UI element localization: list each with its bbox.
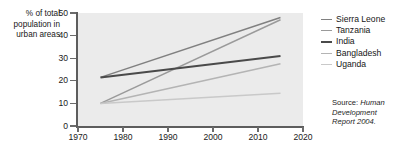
series-line (101, 64, 281, 104)
y-tick-label: 10 (48, 98, 68, 108)
legend-label: Bangladesh (336, 48, 381, 59)
legend-item[interactable]: India (321, 36, 385, 47)
series-line (101, 18, 281, 78)
legend-label: India (336, 36, 355, 47)
x-tick-label: 1990 (151, 132, 185, 142)
x-tick-label: 2020 (286, 132, 320, 142)
legend-label: Tanzania (336, 25, 370, 36)
legend: Sierra LeoneTanzaniaIndiaBangladeshUgand… (321, 14, 385, 70)
y-tick (70, 103, 76, 104)
source-note: Source: Human Development Report 2004. (332, 98, 398, 127)
y-tick (70, 58, 76, 59)
y-tick (70, 125, 76, 126)
series-line (101, 20, 281, 104)
x-axis-line (76, 126, 304, 128)
y-tick-label: 40 (48, 30, 68, 40)
y-tick (70, 35, 76, 36)
legend-line-icon (321, 53, 332, 54)
series-line (101, 93, 281, 103)
line-chart-figure: % of total population in urban areas 010… (0, 0, 398, 147)
y-tick (70, 80, 76, 81)
y-axis-line (76, 12, 78, 127)
plot-lines (78, 13, 303, 126)
plot-area (78, 13, 303, 126)
legend-label: Uganda (336, 59, 366, 70)
legend-item[interactable]: Uganda (321, 59, 385, 70)
legend-item[interactable]: Bangladesh (321, 48, 385, 59)
y-tick (70, 12, 76, 13)
legend-line-icon (321, 30, 332, 31)
y-tick-label: 0 (48, 121, 68, 131)
legend-item[interactable]: Sierra Leone (321, 14, 385, 25)
legend-label: Sierra Leone (336, 14, 385, 25)
x-tick-label: 2000 (196, 132, 230, 142)
legend-line-icon (321, 41, 332, 43)
x-tick-label: 1980 (106, 132, 140, 142)
source-prefix: Source: (332, 98, 360, 107)
x-tick-label: 1970 (61, 132, 95, 142)
x-tick-label: 2010 (241, 132, 275, 142)
y-tick-label: 20 (48, 75, 68, 85)
legend-line-icon (321, 19, 332, 20)
legend-item[interactable]: Tanzania (321, 25, 385, 36)
y-tick-label: 30 (48, 53, 68, 63)
legend-line-icon (321, 64, 332, 65)
y-tick-label: 50 (48, 8, 68, 18)
series-line (101, 56, 281, 77)
